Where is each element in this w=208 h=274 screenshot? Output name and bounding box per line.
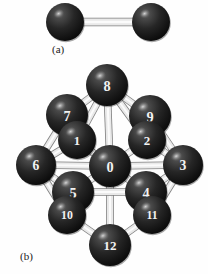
atom-sphere: 8: [86, 64, 129, 107]
atom-sphere: 11: [133, 196, 172, 235]
cluster-diagram: 8791260354101112: [0, 0, 208, 274]
atom-sphere: [132, 3, 171, 42]
panel-a-caption: (a): [52, 43, 64, 55]
atom-sphere: 3: [163, 145, 204, 186]
figure-container: 8791260354101112 (a) (b): [0, 0, 208, 274]
atom-sphere: [46, 3, 85, 42]
atom-sphere: 1: [58, 121, 97, 160]
panel-b-caption: (b): [20, 250, 33, 262]
atom-sphere: 6: [16, 145, 57, 186]
